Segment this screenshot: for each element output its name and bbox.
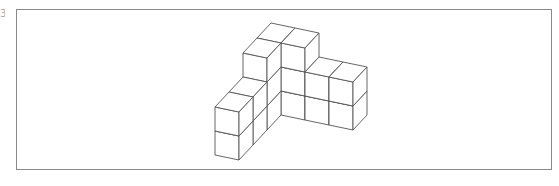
- cube-structure-figure: [0, 0, 559, 186]
